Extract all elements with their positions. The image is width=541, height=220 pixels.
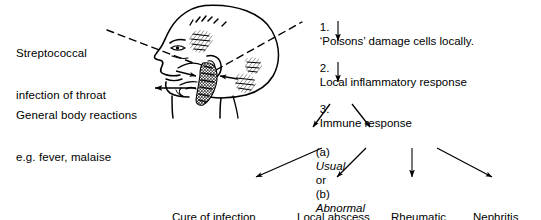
diagram-canvas: Streptococcal infection of throat Genera… — [0, 0, 541, 220]
branch-a-text: Usual — [316, 160, 345, 172]
sequence-item-2-text: Local inflammatory response — [320, 76, 467, 88]
outcome-rheumatic-fever: Rheumatic fever — [391, 182, 446, 220]
sequence-item-2-number: 2. — [320, 62, 330, 74]
outcome-local-abscess-formation-line1: Local abscess — [297, 210, 370, 220]
throat-shaded-region — [196, 63, 217, 106]
outcome-local-abscess-formation: Local abscess formation — [297, 182, 370, 220]
label-general-body-reactions-line2: e.g. fever, malaise — [16, 150, 137, 164]
label-general-body-reactions-line1: General body reactions — [16, 108, 137, 122]
outcome-rheumatic-fever-line1: Rheumatic — [391, 210, 446, 220]
outcome-cure-of-infection: Cure of infection — [172, 182, 256, 220]
outcome-nephritis: Nephritis — [473, 182, 518, 220]
arrow-to-nephritis — [437, 148, 492, 177]
sequence-item-3-text: Immune response — [320, 117, 412, 129]
branch-a-marker: (a) — [316, 146, 330, 158]
sequence-item-1-text: ‘Poisons’ damage cells locally. — [320, 35, 474, 47]
sequence-item-1-number: 1. — [320, 21, 330, 33]
sequence-item-3-number: 3. — [320, 103, 330, 115]
head-profile-illustration — [155, 5, 279, 118]
outcome-nephritis-line1: Nephritis — [473, 210, 518, 220]
label-streptococcal-infection-line1: Streptococcal — [16, 46, 106, 60]
label-general-body-reactions: General body reactions e.g. fever, malai… — [16, 80, 137, 192]
outcome-cure-of-infection-line1: Cure of infection — [172, 210, 256, 220]
